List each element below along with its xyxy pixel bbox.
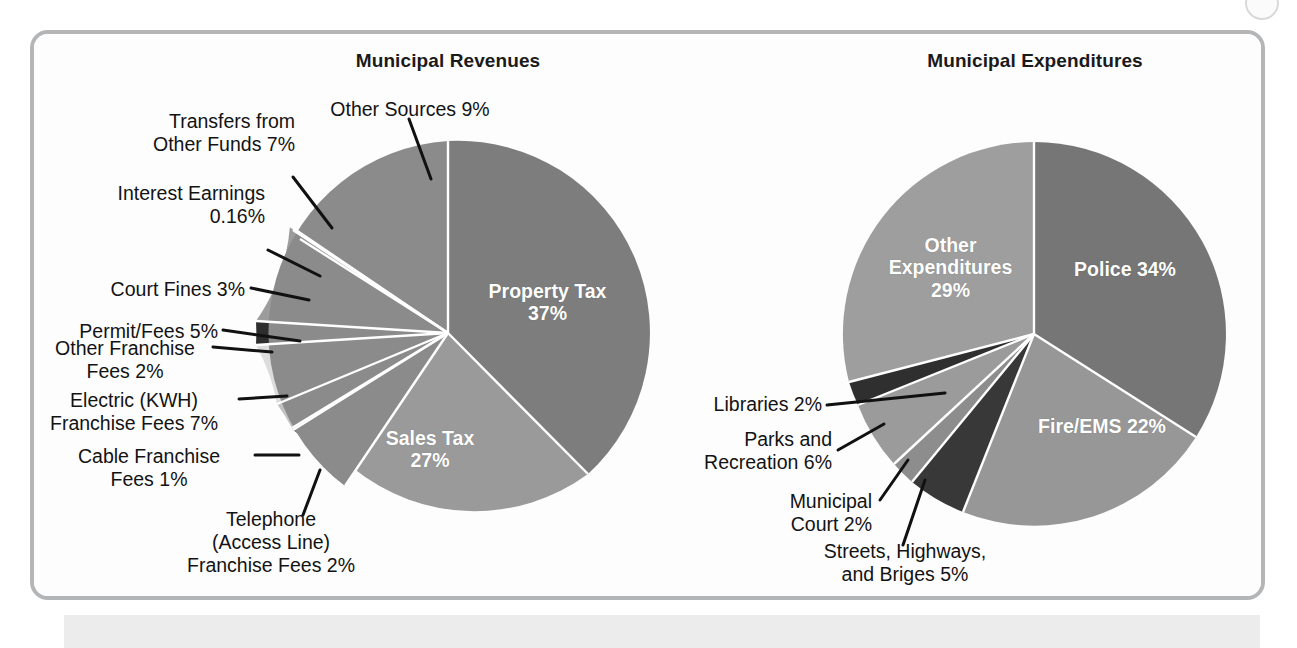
inner-label-other-expenditures-line2: Expenditures xyxy=(868,256,1033,278)
inner-label-police-line1: Police 34% xyxy=(1055,258,1195,280)
callout-other-sources-line1: Other Sources 9% xyxy=(290,98,530,121)
callout-cable-line2: Fees 1% xyxy=(45,468,253,491)
inner-label-sales-tax: Sales Tax 27% xyxy=(355,427,505,472)
callout-parks-and-recreation: Parks and Recreation 6% xyxy=(640,428,832,474)
callout-interest-earnings: Interest Earnings 0.16% xyxy=(80,182,265,228)
callout-telephone-franchise-fees: Telephone (Access Line) Franchise Fees 2… xyxy=(165,508,377,577)
inner-label-fire-ems: Fire/EMS 22% xyxy=(1012,415,1192,437)
callout-municipal-court-line2: Court 2% xyxy=(690,513,872,536)
inner-label-property-tax-line2: 37% xyxy=(470,302,625,324)
callout-cable-line1: Cable Franchise xyxy=(45,445,253,468)
callout-court-fines: Court Fines 3% xyxy=(55,278,245,301)
callout-streets-line2: and Briges 5% xyxy=(795,563,1015,586)
callout-other-sources: Other Sources 9% xyxy=(290,98,530,121)
callout-transfers-line1: Transfers from xyxy=(130,110,295,133)
callout-interest-line1: Interest Earnings xyxy=(80,182,265,205)
callout-municipal-court-line1: Municipal xyxy=(690,490,872,513)
callout-parks-line2: Recreation 6% xyxy=(640,451,832,474)
page-root: Municipal Revenues Municipal Expenditure… xyxy=(0,0,1297,648)
callout-transfers-line2: Other Funds 7% xyxy=(130,133,295,156)
callout-transfers-from-other-funds: Transfers from Other Funds 7% xyxy=(130,110,295,156)
page-shadow-band xyxy=(64,615,1260,648)
callout-interest-line2: 0.16% xyxy=(80,205,265,228)
callout-other-franchise-line1: Other Franchise xyxy=(35,337,215,360)
callout-telephone-line2: (Access Line) xyxy=(165,531,377,554)
page-corner-mark-icon xyxy=(1245,0,1279,20)
chart-title-revenues: Municipal Revenues xyxy=(288,50,608,72)
callout-other-franchise-fees: Other Franchise Fees 2% xyxy=(35,337,215,383)
inner-label-sales-tax-line1: Sales Tax xyxy=(355,427,505,449)
inner-label-fire-ems-line1: Fire/EMS 22% xyxy=(1012,415,1192,437)
callout-libraries-line1: Libraries 2% xyxy=(650,393,822,416)
inner-label-other-expenditures-line1: Other xyxy=(868,234,1033,256)
callout-telephone-line3: Franchise Fees 2% xyxy=(165,554,377,577)
inner-label-sales-tax-line2: 27% xyxy=(355,449,505,471)
callout-other-franchise-line2: Fees 2% xyxy=(35,360,215,383)
inner-label-property-tax: Property Tax 37% xyxy=(470,280,625,325)
callout-parks-line1: Parks and xyxy=(640,428,832,451)
callout-municipal-court: Municipal Court 2% xyxy=(690,490,872,536)
chart-title-expenditures: Municipal Expenditures xyxy=(875,50,1195,72)
inner-label-other-expenditures: Other Expenditures 29% xyxy=(868,234,1033,301)
callout-telephone-line1: Telephone xyxy=(165,508,377,531)
inner-label-police: Police 34% xyxy=(1055,258,1195,280)
callout-electric-franchise-fees: Electric (KWH) Franchise Fees 7% xyxy=(30,389,238,435)
callout-electric-line1: Electric (KWH) xyxy=(30,389,238,412)
callout-court-fines-line1: Court Fines 3% xyxy=(55,278,245,301)
callout-cable-franchise-fees: Cable Franchise Fees 1% xyxy=(45,445,253,491)
callout-streets-line1: Streets, Highways, xyxy=(795,540,1015,563)
callout-streets-highways-briges: Streets, Highways, and Briges 5% xyxy=(795,540,1015,586)
callout-libraries: Libraries 2% xyxy=(650,393,822,416)
inner-label-other-expenditures-line3: 29% xyxy=(868,279,1033,301)
inner-label-property-tax-line1: Property Tax xyxy=(470,280,625,302)
callout-electric-line2: Franchise Fees 7% xyxy=(30,412,238,435)
